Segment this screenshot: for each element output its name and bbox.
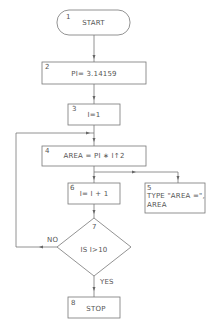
decision-7-label: IS I>10 [57, 246, 131, 254]
node-number-5: 5 [147, 185, 151, 192]
process-6-label: I= I + 1 [68, 190, 120, 198]
process-4-label: AREA = PI ∗ I↑2 [42, 152, 146, 160]
stop-label: STOP [70, 305, 122, 313]
yes-label: YES [100, 278, 114, 286]
start-label: START [57, 19, 130, 27]
process-2-label: PI= 3.14159 [42, 70, 146, 78]
process-3-label: I=1 [68, 111, 120, 119]
output-5-line1: TYPE "AREA =", [147, 192, 205, 200]
node-number-7: 7 [92, 224, 96, 231]
no-label: NO [47, 236, 58, 244]
output-5-line2: AREA [147, 201, 167, 209]
